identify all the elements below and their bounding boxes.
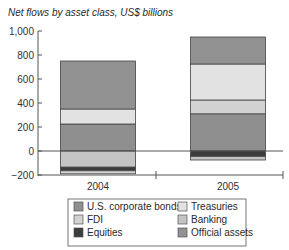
y-tick-label: 800	[17, 50, 34, 61]
legend-swatch	[178, 228, 187, 237]
legend-label: FDI	[87, 214, 103, 225]
legend-swatch	[74, 228, 83, 237]
x-tick-label: 2004	[87, 181, 110, 192]
chart-title: Net flows by asset class, US$ billions	[8, 7, 173, 18]
y-tick-label: −200	[11, 170, 34, 181]
x-tick-label: 2005	[217, 181, 240, 192]
legend-swatch	[178, 215, 187, 224]
bar-segment-equities-2005	[191, 151, 266, 156]
bar-segment-official-assets-2004	[61, 61, 136, 109]
y-tick-label: 0	[28, 146, 34, 157]
bar-group-2005	[191, 37, 266, 160]
bar-segment-fdi-2004	[61, 171, 136, 174]
legend-item: Equities	[74, 227, 123, 238]
bar-segment-fdi-2005	[191, 100, 266, 114]
legend: U.S. corporate bondsTreasuriesFDIBanking…	[68, 199, 253, 246]
bar-segment-u-s-corporate-bonds-2004	[61, 124, 136, 151]
y-tick-label: 1,000	[9, 26, 34, 37]
legend-item: U.S. corporate bonds	[74, 201, 182, 212]
legend-item: Banking	[178, 214, 227, 225]
legend-swatch	[74, 215, 83, 224]
bar-segment-equities-2004	[61, 167, 136, 171]
bar-group-2004	[61, 61, 136, 174]
bar-segment-banking-2005	[191, 156, 266, 160]
bar-segment-treasuries-2004	[61, 109, 136, 124]
legend-label: Official assets	[191, 227, 253, 238]
legend-label: Treasuries	[191, 201, 238, 212]
bars	[61, 37, 266, 174]
legend-label: Equities	[87, 227, 123, 238]
bar-segment-u-s-corporate-bonds-2005	[191, 114, 266, 151]
chart: Net flows by asset class, US$ billions −…	[0, 0, 289, 250]
bar-segment-treasuries-2005	[191, 64, 266, 100]
y-tick-label: 400	[17, 98, 34, 109]
legend-label: U.S. corporate bonds	[87, 201, 182, 212]
legend-label: Banking	[191, 214, 227, 225]
y-tick-label: 600	[17, 74, 34, 85]
legend-item: FDI	[74, 214, 103, 225]
legend-item: Treasuries	[178, 201, 238, 212]
y-tick-label: 200	[17, 122, 34, 133]
bar-segment-banking-2004	[61, 151, 136, 167]
bar-segment-official-assets-2005	[191, 37, 266, 64]
legend-swatch	[74, 202, 83, 211]
y-axis: −20002004006008001,000	[9, 26, 42, 181]
legend-swatch	[178, 202, 187, 211]
